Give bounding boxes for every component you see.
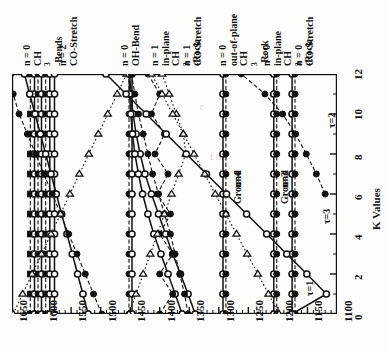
k-axis-title: K Values xyxy=(370,188,382,230)
mode-label-mode: CO-Stretch xyxy=(69,17,80,66)
k-tick-2: 2 xyxy=(352,275,364,281)
mode-label-co-stretch-n0: n = 0 CO-Stretch xyxy=(294,17,315,66)
mode-label-n: n = 0 xyxy=(218,14,229,66)
mode-label-n: n = 2 xyxy=(58,17,69,66)
k-tick-12: 12 xyxy=(352,69,364,80)
mode-label-mode: CO-Stretch xyxy=(305,17,316,66)
wavenumber-tick-1450: 1450 xyxy=(135,300,147,322)
annotation-3: Ground xyxy=(279,170,290,204)
mode-label-n: n = 0 xyxy=(22,37,33,66)
k-tick-6: 6 xyxy=(352,195,364,201)
k-tick-10: 10 xyxy=(352,109,364,120)
wavenumber-tick-1600: 1600 xyxy=(47,300,59,322)
wavenumber-tick-1250: 1250 xyxy=(253,300,265,322)
mode-label-n: n = 0 xyxy=(120,25,131,66)
mode-label-mode: OH-Bend xyxy=(131,25,142,66)
mode-label-oh-bend: n = 0 OH-Bend xyxy=(120,25,141,66)
mode-label-n: n = 1 xyxy=(182,17,193,66)
wavenumber-tick-1350: 1350 xyxy=(194,300,206,322)
wavenumber-tick-1400: 1400 xyxy=(165,300,177,322)
series-tau3 xyxy=(148,74,283,314)
wavenumber-tick-1650: 1650 xyxy=(17,300,29,322)
annotation-1: Ground xyxy=(232,170,243,204)
mode-label-n: n = 1 xyxy=(150,31,161,66)
series-CO-Stretch-n0b xyxy=(292,74,298,314)
wavenumber-tick-1500: 1500 xyxy=(106,300,118,322)
wavenumber-tick-1300: 1300 xyxy=(224,300,236,322)
k-tick-4: 4 xyxy=(352,235,364,241)
series-rock-ramp-up xyxy=(126,74,198,314)
annotation-6: τ=2 xyxy=(326,113,337,128)
mode-label-mode: CO-Stretch xyxy=(193,17,204,66)
annotation-5: τ=3 xyxy=(321,209,332,224)
mode-label-n: n = 0 xyxy=(294,17,305,66)
annotation-4: τ=1 xyxy=(304,281,315,296)
mode-label-co-stretch-n1: n = 1 CO-Stretch xyxy=(182,17,203,66)
figure-root: c f the n = 0 CH3-Bends n = 2 CO-Stretch… xyxy=(0,0,389,352)
wavenumber-tick-1550: 1550 xyxy=(76,300,88,322)
wavenumber-tick-1150: 1150 xyxy=(312,301,324,322)
wavenumber-tick-1200: 1200 xyxy=(283,300,295,322)
mode-label-co-stretch-n2: n = 2 CO-Stretch xyxy=(58,17,79,66)
k-tick-8: 8 xyxy=(352,155,364,161)
k-tick-0: 0 xyxy=(352,315,364,321)
mode-label-n: n = 0 xyxy=(262,31,273,66)
